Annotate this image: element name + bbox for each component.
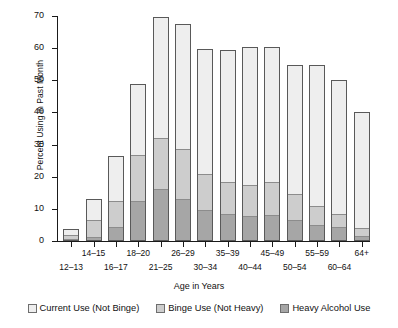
segment-binge-use — [332, 214, 346, 227]
x-tick — [250, 241, 251, 247]
segment-heavy-alcohol-use — [109, 227, 123, 240]
segment-binge-use — [355, 228, 369, 235]
bar-21-25 — [153, 17, 169, 241]
x-tick-label: 64+ — [342, 248, 382, 258]
segment-current-use — [332, 81, 346, 215]
segment-current-use — [176, 25, 190, 149]
x-tick-label: 60–64 — [319, 262, 359, 272]
x-tick — [317, 241, 318, 247]
segment-current-use — [221, 51, 235, 182]
x-axis-title: Age in Years — [0, 281, 398, 291]
segment-binge-use — [221, 182, 235, 214]
segment-heavy-alcohol-use — [154, 189, 168, 240]
y-tick: 30 — [52, 145, 57, 146]
segment-current-use — [154, 18, 168, 138]
segment-heavy-alcohol-use — [355, 236, 369, 240]
bar-30-34 — [197, 49, 213, 241]
legend-item: Current Use (Not Binge) — [28, 303, 140, 313]
bar-16-17 — [108, 156, 124, 241]
segment-current-use — [288, 66, 302, 194]
stacked-bar-chart: Percent Using in Past Month 010203040506… — [0, 0, 398, 328]
segment-current-use — [109, 157, 123, 201]
y-axis-line — [57, 16, 58, 242]
segment-binge-use — [154, 138, 168, 190]
legend-item: Heavy Alcohol Use — [280, 303, 370, 313]
y-tick: 20 — [52, 177, 57, 178]
legend-label: Current Use (Not Binge) — [40, 303, 140, 313]
y-tick: 0 — [52, 241, 57, 242]
segment-current-use — [198, 50, 212, 174]
segment-binge-use — [288, 194, 302, 221]
x-tick — [183, 241, 184, 247]
segment-binge-use — [87, 220, 101, 237]
x-tick — [116, 241, 117, 247]
segment-heavy-alcohol-use — [288, 220, 302, 240]
bar-64+ — [354, 112, 370, 241]
segment-heavy-alcohol-use — [131, 201, 145, 240]
x-tick — [362, 241, 363, 247]
x-tick-label: 14–15 — [74, 248, 114, 258]
segment-current-use — [87, 200, 101, 220]
segment-heavy-alcohol-use — [310, 225, 324, 240]
segment-heavy-alcohol-use — [64, 239, 78, 240]
segment-binge-use — [109, 201, 123, 226]
x-tick — [161, 241, 162, 247]
x-tick-label: 30–34 — [185, 262, 225, 272]
y-tick-label: 50 — [34, 74, 44, 84]
y-tick: 70 — [52, 16, 57, 17]
y-tick-label: 20 — [34, 171, 44, 181]
x-tick-label: 16–17 — [96, 262, 136, 272]
bar-60-64 — [331, 80, 347, 241]
plot-area: 010203040506070 — [57, 16, 370, 242]
segment-current-use — [310, 66, 324, 206]
y-tick: 40 — [52, 112, 57, 113]
segment-binge-use — [243, 185, 257, 216]
x-tick — [71, 241, 72, 247]
segment-heavy-alcohol-use — [176, 199, 190, 240]
x-tick — [138, 241, 139, 247]
y-tick: 60 — [52, 48, 57, 49]
x-tick-label: 40–44 — [230, 262, 270, 272]
y-tick-label: 10 — [34, 203, 44, 213]
segment-binge-use — [198, 174, 212, 211]
y-tick-label: 70 — [34, 10, 44, 20]
segment-heavy-alcohol-use — [221, 214, 235, 240]
legend-label: Heavy Alcohol Use — [292, 303, 370, 313]
x-tick-label: 50–54 — [275, 262, 315, 272]
legend-swatch-icon — [156, 304, 165, 313]
x-tick — [205, 241, 206, 247]
y-tick-label: 30 — [34, 139, 44, 149]
y-tick-label: 0 — [39, 235, 44, 245]
x-tick-label: 55–59 — [297, 248, 337, 258]
bar-50-54 — [287, 65, 303, 241]
x-tick — [94, 241, 95, 247]
legend-swatch-icon — [28, 304, 37, 313]
segment-binge-use — [265, 182, 279, 215]
x-tick-label: 45–49 — [252, 248, 292, 258]
segment-current-use — [265, 48, 279, 182]
y-tick-label: 40 — [34, 106, 44, 116]
y-tick-label: 60 — [34, 42, 44, 52]
legend-label: Binge Use (Not Heavy) — [168, 303, 263, 313]
segment-binge-use — [176, 149, 190, 199]
segment-binge-use — [310, 206, 324, 225]
legend-swatch-icon — [280, 304, 289, 313]
bar-12-13 — [63, 229, 79, 241]
x-axis-line — [57, 241, 370, 242]
bar-18-20 — [130, 84, 146, 241]
segment-heavy-alcohol-use — [332, 227, 346, 240]
segment-current-use — [355, 113, 369, 228]
x-tick — [272, 241, 273, 247]
y-tick: 50 — [52, 80, 57, 81]
x-tick — [228, 241, 229, 247]
x-tick-label: 21–25 — [141, 262, 181, 272]
x-tick-label: 26–29 — [163, 248, 203, 258]
x-tick — [295, 241, 296, 247]
segment-current-use — [131, 85, 145, 155]
bar-26-29 — [175, 24, 191, 241]
segment-heavy-alcohol-use — [87, 237, 101, 240]
bar-55-59 — [309, 65, 325, 241]
segment-current-use — [243, 48, 257, 184]
y-tick: 10 — [52, 209, 57, 210]
chart-legend: Current Use (Not Binge)Binge Use (Not He… — [0, 303, 398, 313]
